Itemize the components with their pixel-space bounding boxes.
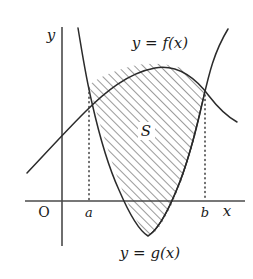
region-label-s: S — [141, 122, 151, 140]
lower-curve-label: y = g(x) — [119, 244, 180, 262]
upper-curve-label: y = f(x) — [131, 34, 188, 52]
tick-label-b: b — [201, 205, 209, 220]
y-axis-label: y — [46, 26, 56, 44]
area-between-curves-figure: y x O a b y = f(x) y = g(x) S — [0, 0, 253, 279]
x-axis-label: x — [223, 202, 232, 220]
origin-label: O — [38, 204, 49, 220]
figure-container: y x O a b y = f(x) y = g(x) S — [0, 0, 253, 279]
region-label-group: S — [138, 122, 155, 140]
tick-label-a: a — [85, 205, 93, 220]
